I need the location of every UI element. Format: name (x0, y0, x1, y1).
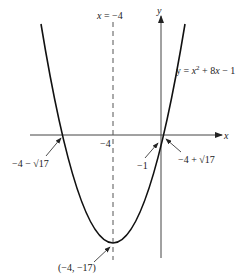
equation-label: y = x2 + 8x − 1 (176, 64, 235, 76)
y-axis-label: y (156, 5, 162, 16)
y-intercept-arrow (145, 143, 158, 158)
x-axis-label: x (223, 130, 229, 141)
y-intercept-label: −1 (137, 160, 148, 171)
vertex-label: (−4, −17) (58, 262, 96, 274)
left-root-arrow (46, 138, 61, 156)
vertex-arrow (94, 247, 110, 262)
right-root-arrow (166, 139, 181, 152)
parabola-graph: x y x = −4 y = x2 + 8x − 1 −4 −4 − √17 −… (0, 0, 238, 278)
axis-of-symmetry-label: x = −4 (96, 10, 123, 21)
left-root-label: −4 − √17 (12, 158, 49, 169)
right-root-label: −4 + √17 (178, 154, 215, 165)
tick-label-neg4: −4 (100, 138, 111, 149)
